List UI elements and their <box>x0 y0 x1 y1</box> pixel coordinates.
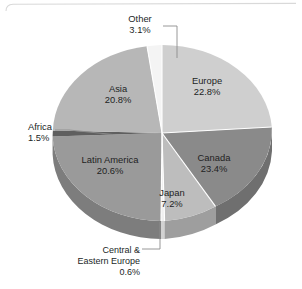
slice-label-europe-value: 22.8% <box>194 86 221 97</box>
slice-label-europe: Europe 22.8% <box>192 75 222 97</box>
slice-label-central-eastern-europe-value: 0.6% <box>119 267 140 277</box>
slice-label-central-eastern-europe-line2: Eastern Europe <box>77 256 140 266</box>
top-rule-divider <box>6 3 296 11</box>
slice-label-africa: Africa 1.5% <box>28 121 53 143</box>
slice-label-japan: Japan 7.2% <box>159 187 185 209</box>
slice-label-canada-value: 23.4% <box>201 163 228 174</box>
slice-label-japan-name: Japan <box>159 187 185 198</box>
slice-label-central-eastern-europe-line1: Central & <box>102 245 140 255</box>
slice-label-africa-value: 1.5% <box>28 132 49 143</box>
slice-label-other: Other 3.1% <box>128 13 151 35</box>
slice-label-asia-name: Asia <box>109 83 128 94</box>
side-wall-central-eastern-europe <box>161 221 165 239</box>
slice-label-latin-america-name: Latin America <box>82 154 140 165</box>
slice-label-other-name: Other <box>128 13 151 24</box>
slice-label-other-value: 3.1% <box>129 24 150 35</box>
slice-label-latin-america-value: 20.6% <box>97 165 124 176</box>
slice-label-asia-value: 20.8% <box>105 94 132 105</box>
pie-chart-figure: Other 3.1% Europe 22.8% Asia 20.8% Afric… <box>0 0 302 289</box>
slice-label-europe-name: Europe <box>192 75 222 86</box>
slice-label-africa-name: Africa <box>28 121 53 132</box>
slice-label-japan-value: 7.2% <box>161 198 182 209</box>
slice-label-canada: Canada 23.4% <box>198 152 232 174</box>
slice-latin-america <box>53 133 162 221</box>
slice-label-canada-name: Canada <box>198 152 232 163</box>
pie-chart-svg: Other 3.1% Europe 22.8% Asia 20.8% Afric… <box>0 0 302 289</box>
slice-asia <box>53 46 162 133</box>
slice-label-central-eastern-europe: Central & Eastern Europe 0.6% <box>77 245 140 277</box>
